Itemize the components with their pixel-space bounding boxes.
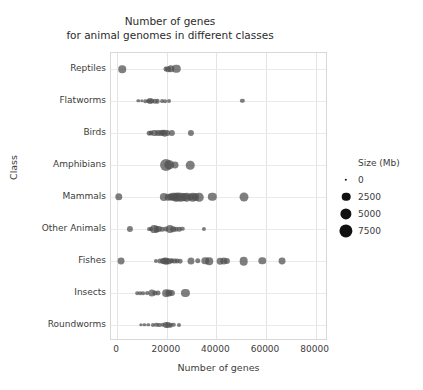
data-point — [177, 323, 181, 327]
chart-title: Number of genes for animal genomes in di… — [0, 14, 340, 42]
y-gridline-mammals — [111, 197, 326, 198]
legend-entry-5000[interactable]: 5000 — [336, 205, 422, 222]
legend-label: 2500 — [358, 192, 381, 202]
data-point — [195, 193, 204, 202]
x-tick-40000: 40000 — [201, 344, 230, 354]
x-axis-tick-labels: 020000400006000080000 — [110, 344, 327, 358]
x-gridline-3 — [266, 53, 267, 339]
data-point — [279, 258, 286, 265]
data-point — [117, 258, 124, 265]
y-tick-mammals: Mammals — [2, 191, 106, 201]
data-point — [188, 257, 195, 264]
y-tick-birds: Birds — [2, 127, 106, 137]
data-point — [156, 291, 161, 296]
y-axis-tick-labels: ReptilesFlatwormsBirdsAmphibiansMammalsO… — [0, 52, 106, 340]
y-gridline-amphibians — [111, 165, 326, 166]
data-point — [118, 65, 126, 73]
x-tick-0: 0 — [113, 344, 119, 354]
legend-entry-2500[interactable]: 2500 — [336, 188, 422, 205]
data-point — [178, 259, 183, 264]
y-tick-fishes: Fishes — [2, 255, 106, 265]
y-gridline-birds — [111, 133, 326, 134]
scatter-chart-figure: Number of genes for animal genomes in di… — [0, 0, 423, 390]
data-point — [167, 99, 171, 103]
data-point — [127, 226, 133, 232]
data-point — [172, 162, 179, 169]
y-tick-other-animals: Other Animals — [2, 223, 106, 233]
y-tick-reptiles: Reptiles — [2, 63, 106, 73]
data-point — [172, 65, 180, 73]
y-tick-roundworms: Roundworms — [2, 319, 106, 329]
data-point — [188, 130, 194, 136]
data-point — [195, 258, 200, 263]
data-point — [239, 257, 248, 266]
legend-rows: 0250050007500 — [336, 171, 422, 239]
data-point — [169, 290, 175, 296]
legend-marker-icon — [339, 224, 352, 237]
x-tick-20000: 20000 — [151, 344, 180, 354]
legend-label: 0 — [358, 175, 364, 185]
data-point — [155, 99, 160, 104]
legend-entry-0[interactable]: 0 — [336, 171, 422, 188]
data-point — [224, 258, 230, 264]
legend: Size (Mb) 0250050007500 — [336, 158, 422, 239]
y-tick-flatworms: Flatworms — [2, 95, 106, 105]
y-tick-amphibians: Amphibians — [2, 159, 106, 169]
plot-area — [110, 52, 327, 340]
legend-marker-icon — [340, 208, 351, 219]
data-point — [205, 257, 213, 265]
chart-title-line-2: for animal genomes in different classes — [0, 28, 340, 42]
data-point — [240, 99, 244, 103]
legend-marker-icon — [342, 192, 351, 201]
data-point — [202, 227, 206, 231]
data-point — [115, 193, 122, 200]
x-gridline-4 — [316, 53, 317, 339]
legend-label: 7500 — [358, 226, 381, 236]
legend-marker-icon — [345, 178, 347, 180]
legend-entry-7500[interactable]: 7500 — [336, 222, 422, 239]
y-gridline-other-animals — [111, 229, 326, 230]
y-tick-insects: Insects — [2, 287, 106, 297]
data-point — [180, 227, 184, 231]
data-point — [186, 161, 195, 170]
data-point — [208, 193, 216, 201]
x-tick-60000: 60000 — [251, 344, 280, 354]
x-gridline-2 — [216, 53, 217, 339]
data-point — [146, 323, 149, 326]
data-point — [259, 257, 266, 264]
x-axis-title: Number of genes — [110, 362, 327, 373]
legend-label: 5000 — [358, 209, 381, 219]
chart-title-line-1: Number of genes — [0, 14, 340, 28]
data-point — [169, 130, 175, 136]
data-point — [181, 289, 189, 297]
data-point — [171, 323, 175, 327]
legend-title: Size (Mb) — [358, 158, 422, 168]
y-gridline-reptiles — [111, 69, 326, 70]
x-tick-80000: 80000 — [300, 344, 329, 354]
data-point — [239, 193, 248, 202]
